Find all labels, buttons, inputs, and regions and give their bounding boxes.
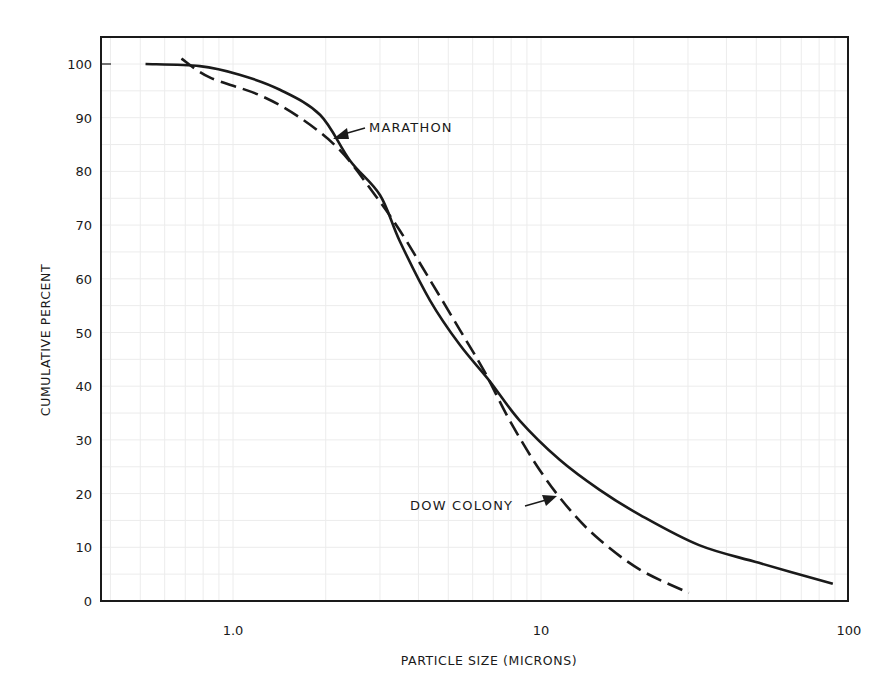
y-tick-label: 50: [75, 326, 92, 341]
y-tick-label: 0: [84, 594, 92, 609]
y-tick-label: 10: [75, 540, 92, 555]
y-axis-title: CUMULATIVE PERCENT: [38, 264, 53, 416]
annotation-marathon-arrowhead-icon: [333, 128, 349, 139]
y-tick-label: 40: [75, 379, 92, 394]
y-tick-label: 70: [75, 218, 92, 233]
annotation-dow-colony-label: DOW COLONY: [410, 498, 513, 513]
plot-frame: [101, 37, 848, 601]
y-tick-label: 90: [75, 111, 92, 126]
x-tick-label: 100: [837, 623, 862, 638]
annotation-dow-colony-arrow-shaft: [525, 500, 546, 506]
y-tick-label: 100: [67, 57, 92, 72]
x-axis-ticks: 1.010100: [223, 623, 862, 638]
x-axis-title: PARTICLE SIZE (MICRONS): [401, 653, 578, 668]
graph-paper-grid: [101, 37, 848, 601]
y-tick-label: 30: [75, 433, 92, 448]
annotation-marathon-label: MARATHON: [369, 120, 453, 135]
y-tick-label: 60: [75, 272, 92, 287]
annotation-dow-colony: DOW COLONY: [410, 495, 557, 513]
x-tick-label: 10: [533, 623, 550, 638]
x-tick-label: 1.0: [223, 623, 244, 638]
particle-size-chart: 0102030405060708090100 1.010100 MARATHON…: [0, 0, 895, 696]
y-tick-label: 80: [75, 164, 92, 179]
annotation-dow-colony-arrowhead-icon: [542, 495, 557, 506]
y-tick-label: 20: [75, 487, 92, 502]
annotation-marathon: MARATHON: [333, 120, 453, 139]
